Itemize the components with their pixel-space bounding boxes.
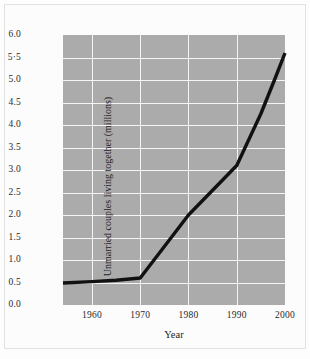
y-axis-title: Unmarried couples living together (milli… <box>102 59 113 315</box>
y-tick-label: 3.5 <box>0 142 21 152</box>
y-tick-label: 2.5 <box>0 187 21 197</box>
y-tick-label: 3.0 <box>0 164 21 174</box>
y-tick-label: 4.5 <box>0 97 21 107</box>
x-axis-title: Year <box>63 329 285 340</box>
series-polyline <box>63 53 285 283</box>
y-tick-label: 1.0 <box>0 254 21 264</box>
x-tick-label: 1970 <box>120 310 160 320</box>
chart-figure: Unmarried couples living together (milli… <box>0 0 310 359</box>
y-tick-label: 1.5 <box>0 232 21 242</box>
figure-frame: Unmarried couples living together (milli… <box>4 4 306 349</box>
y-tick-label: 0.0 <box>0 299 21 309</box>
x-tick-label: 1960 <box>72 310 112 320</box>
x-tick-label: 1980 <box>168 310 208 320</box>
y-tick-label: 2.0 <box>0 209 21 219</box>
y-tick-label: 5·5 <box>0 52 21 62</box>
y-tick-label: 0.5 <box>0 277 21 287</box>
data-line-series <box>63 35 285 305</box>
y-tick-label: 6.0 <box>0 29 21 39</box>
plot-panel: Unmarried couples living together (milli… <box>63 35 285 305</box>
x-tick-label: 2000 <box>265 310 305 320</box>
y-tick-label: 4.0 <box>0 119 21 129</box>
y-tick-label: 5.0 <box>0 74 21 84</box>
x-tick-label: 1990 <box>217 310 257 320</box>
